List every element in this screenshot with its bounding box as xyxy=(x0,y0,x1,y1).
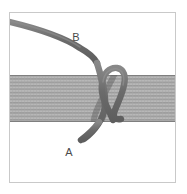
rope-through-band-diagram: B A xyxy=(0,0,187,194)
label-a: A xyxy=(65,146,73,158)
figure-container: B A xyxy=(0,0,187,194)
label-b: B xyxy=(72,31,79,43)
